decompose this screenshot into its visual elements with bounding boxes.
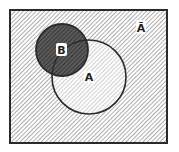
complement-label: Ā — [137, 22, 146, 35]
set-a-label: A — [85, 71, 94, 84]
venn-diagram: B A Ā — [0, 0, 179, 152]
set-b-label: B — [57, 44, 65, 57]
